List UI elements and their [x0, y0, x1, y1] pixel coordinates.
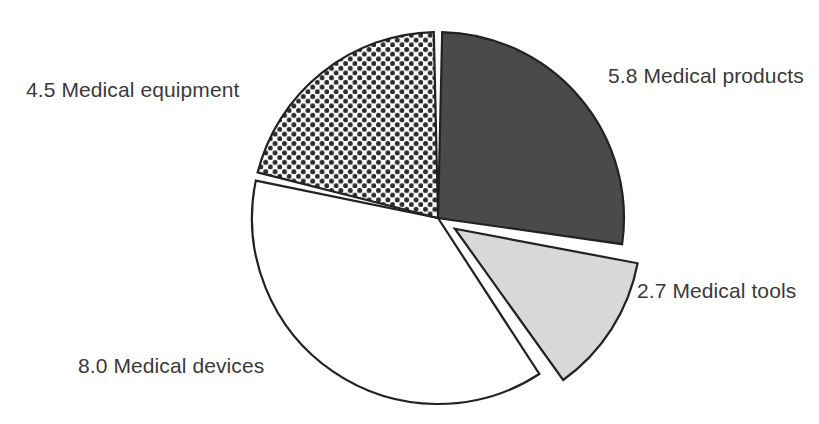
pie-chart: 4.5 Medical equipment 5.8 Medical produc…: [0, 0, 819, 424]
pie-label-medical-equipment: 4.5 Medical equipment: [26, 78, 239, 102]
pie-label-medical-devices: 8.0 Medical devices: [78, 354, 264, 378]
pie-label-medical-tools: 2.7 Medical tools: [637, 279, 796, 303]
pie-label-medical-products: 5.8 Medical products: [608, 64, 804, 88]
pie-slice-medical-products[interactable]: [438, 32, 624, 244]
